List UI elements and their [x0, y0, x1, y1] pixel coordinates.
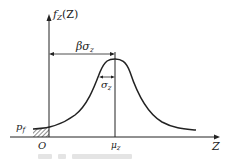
- sigma-label: σz: [101, 80, 112, 92]
- beta-sigma-label: βσz: [76, 41, 94, 54]
- failure-prob-label: pf: [16, 122, 25, 134]
- figure-caption: [38, 154, 156, 160]
- x-axis-label: Z: [212, 141, 220, 152]
- origin-label: O: [38, 141, 46, 151]
- mean-label: μz: [111, 141, 121, 152]
- y-axis-arrow-icon: [47, 14, 52, 21]
- y-axis-label: fZ(Z): [53, 9, 78, 22]
- x-axis-arrow-icon: [214, 135, 220, 140]
